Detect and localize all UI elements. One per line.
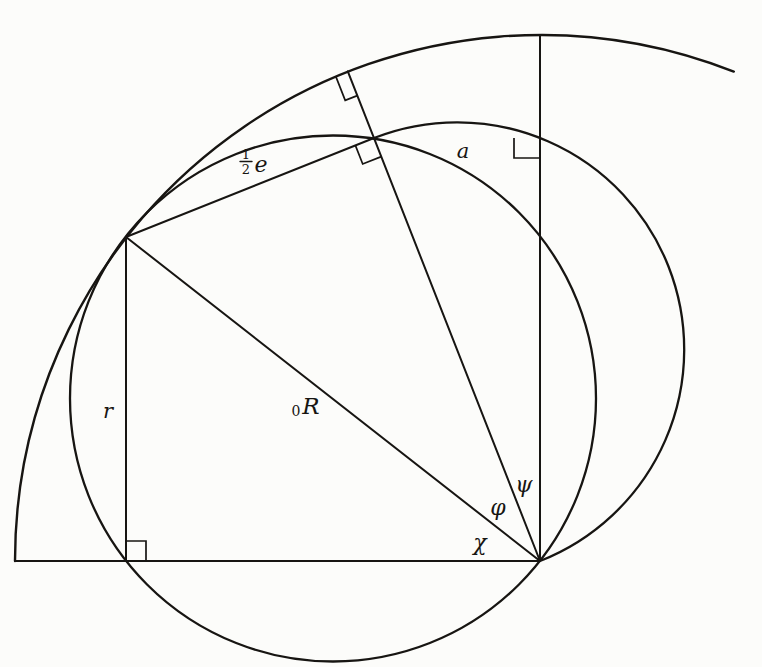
outer-large-arc: [15, 35, 734, 561]
R0-chord-line: [126, 237, 540, 561]
label-half-e-letter: e: [254, 152, 267, 177]
label-R-subscript-zero: 0: [292, 403, 301, 419]
label-R: R: [301, 393, 319, 419]
label-r: r: [103, 399, 115, 423]
psi-ray-through-P2: [348, 71, 540, 561]
geometry-diagram: 12ear0Rψφχ: [0, 0, 762, 667]
right-angle-mark-baseline-foot: [126, 541, 146, 561]
label-phi: φ: [490, 495, 506, 520]
label-psi: ψ: [515, 472, 533, 497]
label-half-e-denominator: 2: [242, 162, 250, 177]
label-chi: χ: [471, 530, 488, 555]
label-half-e-numerator: 1: [242, 147, 250, 162]
figure-canvas: 12ear0Rψφχ: [0, 0, 762, 667]
label-a: a: [457, 139, 470, 163]
right-angle-mark-a-corner: [514, 138, 540, 158]
